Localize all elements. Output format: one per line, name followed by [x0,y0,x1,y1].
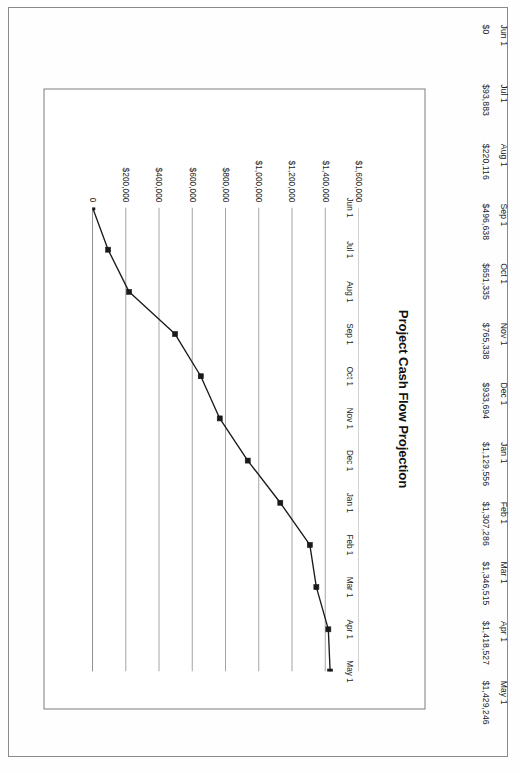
cash-flow-data-table: Jun 1 Jul 1 Aug 1 Sep 1 Oct 1 Nov 1 Dec … [448,24,510,740]
table-row-values: $0 $93,883 $220,116 $496,638 $651,335 $7… [477,24,492,740]
table-cell-value-6: $933,694 [477,382,492,442]
chart-title: Project Cash Flow Projection [395,89,410,708]
chart-frame: Project Cash Flow Projection 0$200,000$4… [43,88,425,709]
y-axis-tick-label: $200,000 [120,167,130,202]
table-cell-date-8: Feb 1 [492,501,510,561]
table-cell-value-9: $1,346,515 [477,561,492,621]
line-chart-svg [92,207,358,671]
table-cell-date-5: Nov 1 [492,322,510,382]
y-axis-tick-label: $1,400,000 [320,160,330,202]
table-cell-date-9: Mar 1 [492,561,510,621]
table-cell-value-8: $1,307,286 [477,501,492,561]
x-axis-tick-label: Mar 1 [344,576,353,597]
x-axis-tick-label: Oct 1 [344,366,353,386]
table-cell-date-11: May 1 [492,680,510,740]
chart-plot-area: 0$200,000$400,000$600,000$800,000$1,000,… [92,207,358,671]
table-cell-value-1: $93,883 [477,84,492,144]
rotated-page-content: Jun 1 Jul 1 Aug 1 Sep 1 Oct 1 Nov 1 Dec … [0,0,520,773]
table-cell-date-3: Sep 1 [492,203,510,263]
table-cell-value-0: $0 [477,24,492,84]
x-axis-tick-label: Aug 1 [344,281,353,302]
y-axis-tick-label: $600,000 [187,167,197,202]
table-cell-value-11: $1,429,246 [477,680,492,740]
table-cell-date-0: Jun 1 [492,24,510,84]
y-axis-tick-label: $1,600,000 [353,160,363,202]
table-cell-date-7: Jan 1 [492,442,510,502]
table-cell-date-10: Apr 1 [492,621,510,681]
y-axis-tick-label: $1,200,000 [287,160,297,202]
table-cell-value-4: $651,335 [477,263,492,323]
table-row-dates: Jun 1 Jul 1 Aug 1 Sep 1 Oct 1 Nov 1 Dec … [492,24,510,740]
x-axis-tick-label: Feb 1 [344,534,353,555]
table-cell-date-4: Oct 1 [492,263,510,323]
y-axis-tick-label: $1,000,000 [253,160,263,202]
x-axis-tick-label: Dec 1 [344,449,353,470]
table-cell-date-1: Jul 1 [492,84,510,144]
y-axis-tick-label: 0 [87,197,97,202]
x-axis-tick-label: May 1 [344,660,353,682]
table-cell-value-3: $496,638 [477,203,492,263]
x-axis-tick-label: Jan 1 [344,492,353,512]
x-axis-tick-label: Nov 1 [344,407,353,428]
x-axis-tick-label: Sep 1 [344,323,353,344]
table-cell-value-2: $220,116 [477,143,492,203]
table-cell-date-2: Aug 1 [492,143,510,203]
x-axis-tick-label: Jul 1 [344,241,353,258]
scanned-page-sheet: Jun 1 Jul 1 Aug 1 Sep 1 Oct 1 Nov 1 Dec … [0,0,520,773]
y-axis-tick-label: $400,000 [154,167,164,202]
table-cell-value-7: $1,129,556 [477,442,492,502]
table-cell-value-5: $765,338 [477,322,492,382]
y-axis-tick-label: $800,000 [220,167,230,202]
data-table-grid: Jun 1 Jul 1 Aug 1 Sep 1 Oct 1 Nov 1 Dec … [477,24,510,740]
x-axis-tick-label: Apr 1 [344,619,353,639]
x-axis-tick-label: Jun 1 [344,197,353,217]
table-cell-date-6: Dec 1 [492,382,510,442]
table-cell-value-10: $1,418,527 [477,621,492,681]
